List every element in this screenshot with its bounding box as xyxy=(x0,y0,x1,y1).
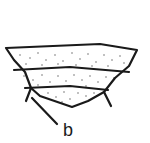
leader-line-b xyxy=(32,98,57,124)
left-leg xyxy=(26,88,31,101)
right-leg xyxy=(104,92,111,106)
cross-section-diagram xyxy=(0,0,150,143)
label-b: b xyxy=(63,121,73,139)
